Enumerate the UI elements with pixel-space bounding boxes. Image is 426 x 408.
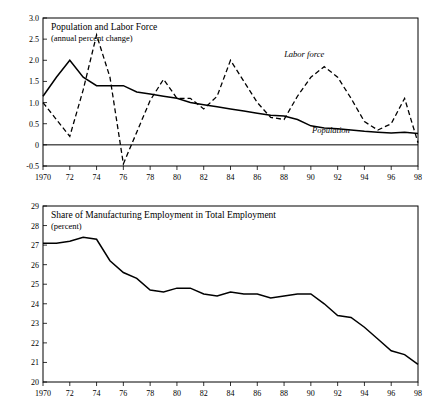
x-tick-label-top: 94 (360, 173, 368, 182)
x-tick-label-bottom: 76 (119, 389, 127, 398)
x-tick-label-bottom: 90 (307, 389, 315, 398)
x-tick-label-top: 98 (414, 173, 422, 182)
x-tick-label-bottom: 94 (360, 389, 368, 398)
x-tick-label-top: 92 (334, 173, 342, 182)
y-tick-label-top: 2.5 (29, 35, 39, 44)
series-annotation-population: Population (311, 125, 350, 135)
y-tick-label-top: 3.0 (29, 14, 39, 23)
x-tick-label-top: 72 (66, 173, 74, 182)
x-tick-label-bottom: 86 (253, 389, 261, 398)
y-tick-label-bottom: 27 (31, 241, 39, 250)
y-tick-label-bottom: 21 (31, 358, 39, 367)
y-tick-label-top: 1.0 (29, 99, 39, 108)
x-tick-label-top: 90 (307, 173, 315, 182)
x-tick-label-top: 80 (173, 173, 181, 182)
x-tick-label-top: 82 (200, 173, 208, 182)
y-tick-label-bottom: 29 (31, 202, 39, 211)
x-tick-label-top: 86 (253, 173, 261, 182)
x-tick-label-bottom: 98 (414, 389, 422, 398)
chart-svg-top: 3.02.52.01.51.00.50-0.519707274767880828… (0, 0, 426, 190)
chart-panel-population-labor-force: 3.02.52.01.51.00.50-0.519707274767880828… (0, 0, 426, 190)
x-tick-label-top: 84 (227, 173, 235, 182)
y-tick-label-bottom: 28 (31, 222, 39, 231)
chart-svg-bottom: 2928272625242322212019707274767880828486… (0, 196, 426, 408)
x-tick-label-bottom: 80 (173, 389, 181, 398)
y-tick-label-bottom: 22 (31, 339, 39, 348)
x-tick-label-bottom: 82 (200, 389, 208, 398)
y-tick-label-top: -0.5 (26, 162, 39, 171)
chart-subtitle-top: (annual percent change) (51, 33, 133, 43)
x-tick-label-bottom: 1970 (35, 389, 51, 398)
x-tick-label-top: 78 (146, 173, 154, 182)
chart-title-top: Population and Labor Force (51, 22, 157, 32)
plot-frame-bottom (43, 206, 418, 382)
x-tick-label-bottom: 84 (227, 389, 235, 398)
x-tick-label-top: 76 (119, 173, 127, 182)
y-tick-label-bottom: 20 (31, 378, 39, 387)
x-tick-label-top: 74 (93, 173, 101, 182)
y-tick-label-top: 1.5 (29, 77, 39, 86)
y-tick-label-bottom: 26 (31, 261, 39, 270)
chart-panel-manufacturing-share: 2928272625242322212019707274767880828486… (0, 196, 426, 408)
x-tick-label-bottom: 72 (66, 389, 74, 398)
series-annotation-labor-force: Labor force (283, 49, 324, 59)
x-tick-label-top: 1970 (35, 173, 51, 182)
x-tick-label-bottom: 78 (146, 389, 154, 398)
y-tick-label-bottom: 23 (31, 319, 39, 328)
y-tick-label-bottom: 24 (31, 300, 39, 309)
x-tick-label-top: 88 (280, 173, 288, 182)
x-tick-label-top: 96 (387, 173, 395, 182)
x-tick-label-bottom: 96 (387, 389, 395, 398)
chart-subtitle-bottom: (percent) (51, 221, 82, 231)
y-tick-label-top: 0.5 (29, 120, 39, 129)
x-tick-label-bottom: 74 (93, 389, 101, 398)
x-tick-label-bottom: 88 (280, 389, 288, 398)
figure-root: 3.02.52.01.51.00.50-0.519707274767880828… (0, 0, 426, 408)
chart-title-bottom: Share of Manufacturing Employment in Tot… (51, 210, 276, 220)
y-tick-label-top: 2.0 (29, 56, 39, 65)
y-tick-label-bottom: 25 (31, 280, 39, 289)
y-tick-label-top: 0 (35, 141, 39, 150)
x-tick-label-bottom: 92 (334, 389, 342, 398)
